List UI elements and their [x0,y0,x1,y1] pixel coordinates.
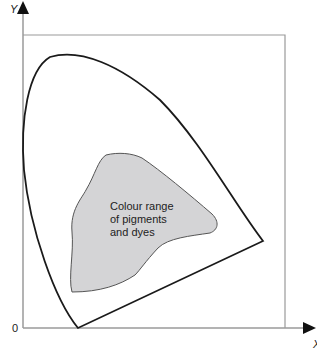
chromaticity-diagram [0,0,317,352]
region-label-line: Colour range [110,200,174,213]
y-axis-arrow-icon [17,1,29,14]
x-axis-arrow-icon [303,322,316,334]
region-label-line: and dyes [110,226,174,239]
origin-label: 0 [12,322,18,334]
region-label: Colour range of pigments and dyes [110,200,174,239]
y-axis-label: Y [10,3,17,15]
x-axis-label: X [313,338,317,350]
region-label-line: of pigments [110,213,174,226]
